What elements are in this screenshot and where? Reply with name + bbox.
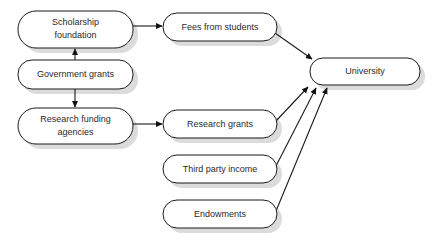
node-scholarship-foundation-label-line2: foundation: [54, 30, 96, 40]
edge-research-grants-to-university[interactable]: [276, 87, 308, 121]
node-fees-from-students[interactable]: Fees from students: [163, 13, 277, 41]
node-university-label: University: [345, 66, 385, 76]
edge-endowments-to-university[interactable]: [276, 88, 327, 211]
diagram-canvas-container: Scholarship foundation Government grants…: [0, 0, 439, 249]
node-research-grants-label: Research grants: [187, 119, 254, 129]
node-fees-from-students-label: Fees from students: [181, 22, 259, 32]
node-research-funding-agencies-label-line1: Research funding: [40, 114, 111, 124]
node-government-grants[interactable]: Government grants: [18, 60, 133, 89]
node-scholarship-foundation-label-line1: Scholarship: [52, 17, 99, 27]
node-endowments[interactable]: Endowments: [163, 200, 277, 228]
income-sources-flowchart: Scholarship foundation Government grants…: [0, 0, 439, 249]
node-research-grants[interactable]: Research grants: [163, 110, 277, 138]
edge-fees-from-students-to-university[interactable]: [275, 33, 312, 59]
node-government-grants-label: Government grants: [37, 69, 115, 79]
node-scholarship-foundation[interactable]: Scholarship foundation: [18, 11, 133, 48]
node-endowments-label: Endowments: [194, 209, 247, 219]
node-third-party-income[interactable]: Third party income: [163, 155, 277, 183]
node-third-party-income-label: Third party income: [183, 164, 258, 174]
node-research-funding-agencies-label-line2: agencies: [57, 127, 94, 137]
node-research-funding-agencies[interactable]: Research funding agencies: [18, 108, 133, 144]
node-university[interactable]: University: [310, 58, 420, 85]
